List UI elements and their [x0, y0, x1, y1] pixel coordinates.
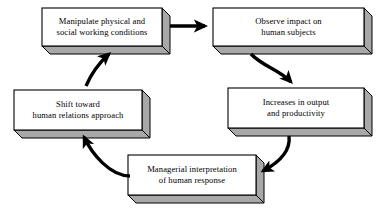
arrow-observe-to-increases: [251, 54, 291, 82]
node-label-increases-output: Increases in output and productivity: [228, 88, 364, 128]
arrow-increases-to-managerial: [263, 136, 289, 171]
node-label-managerial-interpretation: Managerial interpretation of human respo…: [128, 155, 256, 195]
node-managerial-interpretation[interactable]: Managerial interpretation of human respo…: [128, 155, 264, 203]
node-increases-output[interactable]: Increases in output and productivity: [228, 88, 372, 136]
node-label-shift-human-relations: Shift toward human relations approach: [14, 90, 142, 130]
node-bottom-face: [128, 195, 264, 203]
node-observe-impact[interactable]: Observe impact on human subjects: [213, 8, 372, 54]
node-bottom-face: [42, 46, 170, 54]
diagram-canvas: Manipulate physical and social working c…: [0, 0, 382, 214]
node-side-face: [364, 88, 372, 136]
node-side-face: [364, 8, 372, 54]
node-manipulate-conditions[interactable]: Manipulate physical and social working c…: [42, 8, 170, 54]
node-shift-human-relations[interactable]: Shift toward human relations approach: [14, 90, 150, 138]
node-side-face: [162, 8, 170, 54]
node-bottom-face: [228, 128, 372, 136]
node-bottom-face: [213, 46, 372, 54]
node-side-face: [256, 155, 264, 203]
arrow-managerial-to-shift: [84, 137, 130, 176]
node-label-observe-impact: Observe impact on human subjects: [213, 8, 364, 46]
node-side-face: [142, 90, 150, 138]
arrow-shift-to-manipulate: [86, 54, 109, 86]
node-bottom-face: [14, 130, 150, 138]
node-label-manipulate-conditions: Manipulate physical and social working c…: [42, 8, 162, 46]
